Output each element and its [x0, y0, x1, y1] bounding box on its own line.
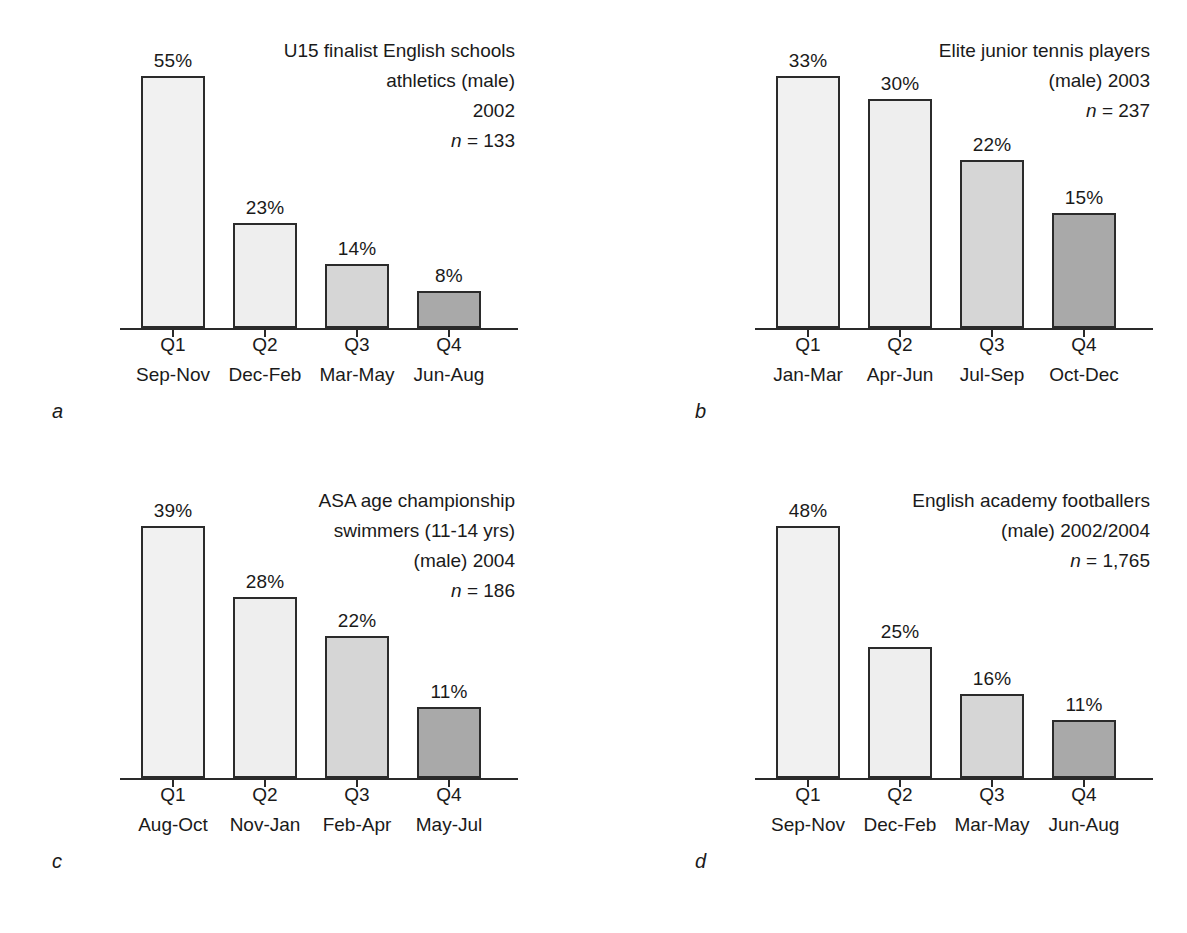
panel-d: English academy footballers (male) 2002/… [594, 450, 1187, 916]
panel-c-bars: 39% 28% 22% 11% [120, 480, 518, 778]
panel-a-category-q2: Q2 Dec-Feb [215, 332, 315, 392]
panel-a-category-q4: Q4 Jun-Aug [399, 332, 499, 392]
panel-c-category-q1-quarter: Q1 [123, 782, 223, 808]
panel-d-bar-slot-q1: 48% [762, 480, 854, 778]
panel-a-category-labels: Q1 Sep-Nov Q2 Dec-Feb Q3 Mar-May Q4 Jun-… [120, 332, 520, 402]
panel-b-category-q1-months: Jan-Mar [758, 358, 858, 392]
panel-c-category-q3-quarter: Q3 [307, 782, 407, 808]
panel-a-category-q3-months: Mar-May [307, 358, 407, 392]
panel-d-bars: 48% 25% 16% 11% [755, 480, 1153, 778]
panel-b-category-q4-months: Oct-Dec [1034, 358, 1134, 392]
panel-a-value-q3: 14% [311, 238, 403, 260]
panel-c-bar-q2[interactable] [233, 597, 297, 778]
panel-c-category-q4: Q4 May-Jul [399, 782, 499, 842]
panel-b-category-q2: Q2 Apr-Jun [850, 332, 950, 392]
panel-b-value-q3: 22% [946, 134, 1038, 156]
panel-b-plot-area: 33% 30% 22% 15% [755, 30, 1155, 330]
panel-b-bar-q1[interactable] [776, 76, 840, 328]
panel-a-bar-slot-q3: 14% [311, 30, 403, 328]
panel-a-x-axis [120, 328, 518, 330]
panel-c-bar-slot-q3: 22% [311, 480, 403, 778]
panel-b-value-q4: 15% [1038, 187, 1130, 209]
panel-a-plot-area: 55% 23% 14% 8% [120, 30, 520, 330]
panel-d-category-q1-months: Sep-Nov [758, 808, 858, 842]
panel-d-value-q3: 16% [946, 668, 1038, 690]
panel-a-bar-q1[interactable] [141, 76, 205, 328]
panel-c-value-q2: 28% [219, 571, 311, 593]
panel-c-bar-q3[interactable] [325, 636, 389, 778]
panel-a-category-q1-quarter: Q1 [123, 332, 223, 358]
panel-c-category-q4-quarter: Q4 [399, 782, 499, 808]
panel-c-value-q3: 22% [311, 610, 403, 632]
panel-d-bar-slot-q3: 16% [946, 480, 1038, 778]
panel-a-category-q2-quarter: Q2 [215, 332, 315, 358]
panel-a-bar-slot-q1: 55% [127, 30, 219, 328]
panel-b-category-q4-quarter: Q4 [1034, 332, 1134, 358]
panel-a-bar-q2[interactable] [233, 223, 297, 328]
panel-b-bar-slot-q4: 15% [1038, 30, 1130, 328]
panel-a-value-q1: 55% [127, 50, 219, 72]
panel-d-bar-slot-q4: 11% [1038, 480, 1130, 778]
panel-d-category-q3-months: Mar-May [942, 808, 1042, 842]
panel-b-bar-slot-q1: 33% [762, 30, 854, 328]
panel-d-bar-q1[interactable] [776, 526, 840, 778]
panel-c-category-q3-months: Feb-Apr [307, 808, 407, 842]
panel-d-value-q1: 48% [762, 500, 854, 522]
panel-b-category-labels: Q1 Jan-Mar Q2 Apr-Jun Q3 Jul-Sep Q4 Oct-… [755, 332, 1155, 402]
panel-a-category-q4-quarter: Q4 [399, 332, 499, 358]
panel-d-value-q2: 25% [854, 621, 946, 643]
panel-c-category-q4-months: May-Jul [399, 808, 499, 842]
panel-b-bar-slot-q3: 22% [946, 30, 1038, 328]
panel-d-plot-area: 48% 25% 16% 11% [755, 480, 1155, 780]
panel-c-bar-q1[interactable] [141, 526, 205, 778]
panel-d-category-q4-months: Jun-Aug [1034, 808, 1134, 842]
panel-a-category-q3: Q3 Mar-May [307, 332, 407, 392]
panel-a-bar-q3[interactable] [325, 264, 389, 328]
panel-d-bar-slot-q2: 25% [854, 480, 946, 778]
panel-b-value-q2: 30% [854, 73, 946, 95]
panel-c-value-q1: 39% [127, 500, 219, 522]
panel-d-bar-q3[interactable] [960, 694, 1024, 778]
panel-a-category-q3-quarter: Q3 [307, 332, 407, 358]
panel-d-bar-q4[interactable] [1052, 720, 1116, 778]
panel-b: Elite junior tennis players (male) 2003 … [594, 0, 1187, 466]
panel-c: ASA age championship swimmers (11-14 yrs… [0, 450, 593, 916]
panel-b-bar-q3[interactable] [960, 160, 1024, 328]
panel-a-letter: a [52, 400, 63, 423]
panel-c-value-q4: 11% [403, 681, 495, 703]
panel-a-bar-slot-q4: 8% [403, 30, 495, 328]
panel-b-bar-slot-q2: 30% [854, 30, 946, 328]
panel-b-category-q1: Q1 Jan-Mar [758, 332, 858, 392]
panel-c-bar-q4[interactable] [417, 707, 481, 778]
panel-a-bar-slot-q2: 23% [219, 30, 311, 328]
panel-a-bar-q4[interactable] [417, 291, 481, 328]
panel-a-category-q2-months: Dec-Feb [215, 358, 315, 392]
panel-b-bar-q4[interactable] [1052, 213, 1116, 328]
panel-b-category-q2-quarter: Q2 [850, 332, 950, 358]
panel-c-x-axis [120, 778, 518, 780]
panel-b-letter: b [695, 400, 706, 423]
panel-a-value-q4: 8% [403, 265, 495, 287]
panel-d-category-q3-quarter: Q3 [942, 782, 1042, 808]
panel-a-category-q1-months: Sep-Nov [123, 358, 223, 392]
panel-d-category-q2-months: Dec-Feb [850, 808, 950, 842]
panel-c-category-labels: Q1 Aug-Oct Q2 Nov-Jan Q3 Feb-Apr Q4 May-… [120, 782, 520, 852]
panel-b-x-axis [755, 328, 1153, 330]
panel-d-category-q2-quarter: Q2 [850, 782, 950, 808]
panel-c-category-q3: Q3 Feb-Apr [307, 782, 407, 842]
panel-d-category-q3: Q3 Mar-May [942, 782, 1042, 842]
panel-c-letter: c [52, 850, 62, 873]
panel-a-value-q2: 23% [219, 197, 311, 219]
panel-c-category-q1-months: Aug-Oct [123, 808, 223, 842]
panel-d-category-q2: Q2 Dec-Feb [850, 782, 950, 842]
panel-c-category-q2-quarter: Q2 [215, 782, 315, 808]
panel-b-bar-q2[interactable] [868, 99, 932, 328]
panel-d-value-q4: 11% [1038, 694, 1130, 716]
panel-c-category-q2-months: Nov-Jan [215, 808, 315, 842]
panel-c-category-q2: Q2 Nov-Jan [215, 782, 315, 842]
panel-b-bars: 33% 30% 22% 15% [755, 30, 1153, 328]
panel-b-category-q3-months: Jul-Sep [942, 358, 1042, 392]
panel-d-category-labels: Q1 Sep-Nov Q2 Dec-Feb Q3 Mar-May Q4 Jun-… [755, 782, 1155, 852]
panel-b-category-q2-months: Apr-Jun [850, 358, 950, 392]
panel-d-bar-q2[interactable] [868, 647, 932, 778]
